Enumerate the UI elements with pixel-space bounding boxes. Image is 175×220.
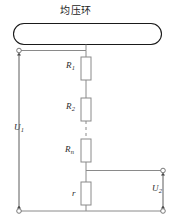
resistor-r-body bbox=[81, 182, 91, 205]
resistor-R1-body bbox=[81, 57, 91, 80]
resistor-R1-symbol: R bbox=[66, 60, 72, 70]
top-right-terminal[interactable] bbox=[161, 168, 166, 173]
circuit-svg bbox=[0, 0, 175, 220]
resistor-Rn-symbol: R bbox=[65, 144, 71, 154]
voltage-U2-label: U2 bbox=[152, 184, 162, 193]
voltage-U2-subscript: 2 bbox=[159, 187, 162, 194]
resistor-R1-label: R1 bbox=[66, 61, 75, 70]
equalizing-ring bbox=[14, 24, 162, 45]
resistor-Rn-label: Rn bbox=[65, 145, 74, 154]
voltage-U1-symbol: U bbox=[14, 122, 21, 132]
resistor-R2-body bbox=[81, 98, 91, 121]
resistor-R2-symbol: R bbox=[66, 101, 72, 111]
voltage-U1-subscript: 1 bbox=[21, 126, 24, 133]
resistor-R2-label: R2 bbox=[66, 102, 75, 111]
resistor-Rn-subscript: n bbox=[71, 148, 74, 155]
circuit-diagram: 均压环 R1 R2 Rn r U1 U2 bbox=[0, 0, 175, 220]
top-left-terminal[interactable] bbox=[17, 48, 22, 53]
diagram-title: 均压环 bbox=[60, 6, 92, 16]
resistor-R1-subscript: 1 bbox=[72, 64, 75, 71]
bottom-left-terminal[interactable] bbox=[17, 209, 22, 214]
voltage-U2-symbol: U bbox=[152, 183, 159, 193]
bottom-right-terminal[interactable] bbox=[161, 209, 166, 214]
resistor-R2-subscript: 2 bbox=[72, 105, 75, 112]
voltage-U1-label: U1 bbox=[14, 123, 24, 132]
resistor-r-label: r bbox=[72, 189, 76, 198]
resistor-Rn-body bbox=[81, 139, 91, 162]
